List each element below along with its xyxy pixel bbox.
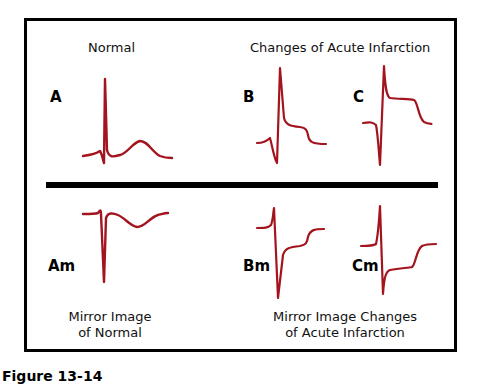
figure-caption: Figure 13-14: [2, 368, 102, 384]
mirror-infarction-title: Mirror Image Changes of Acute Infarction: [250, 309, 440, 341]
mirror-normal-title-line1: Mirror Image: [60, 309, 160, 325]
mirror-infarction-title-line1: Mirror Image Changes: [250, 309, 440, 325]
mirror-infarction-title-line2: of Acute Infarction: [250, 325, 440, 341]
mirror-normal-title-line2: of Normal: [60, 325, 160, 341]
mirror-normal-title: Mirror Image of Normal: [60, 309, 160, 341]
